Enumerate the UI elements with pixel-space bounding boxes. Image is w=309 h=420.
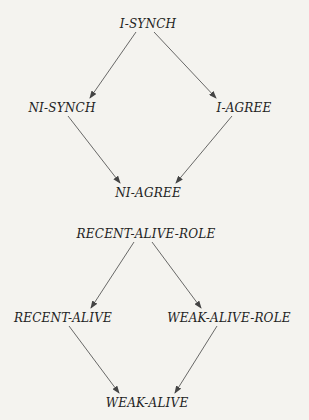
edge-arrow — [90, 32, 136, 98]
edge-arrow — [152, 242, 201, 308]
node-weak-alive-role: WEAK-ALIVE-ROLE — [167, 311, 291, 325]
node-ni-synch: NI-SYNCH — [28, 101, 95, 115]
node-recent-alive-role: RECENT-ALIVE-ROLE — [77, 227, 216, 241]
edge-arrow — [91, 242, 134, 308]
node-i-synch: I-SYNCH — [120, 17, 176, 31]
edge-arrow — [69, 326, 119, 393]
node-weak-alive: WEAK-ALIVE — [106, 396, 189, 410]
edges-layer — [0, 0, 309, 420]
node-ni-agree: NI-AGREE — [115, 186, 181, 200]
edge-arrow — [68, 116, 120, 183]
node-i-agree: I-AGREE — [216, 101, 271, 115]
node-recent-alive: RECENT-ALIVE — [14, 311, 112, 325]
edge-arrow — [176, 116, 232, 183]
edge-arrow — [154, 32, 216, 98]
edge-arrow — [175, 326, 217, 393]
diagram-canvas: I-SYNCH NI-SYNCH I-AGREE NI-AGREE RECENT… — [0, 0, 309, 420]
